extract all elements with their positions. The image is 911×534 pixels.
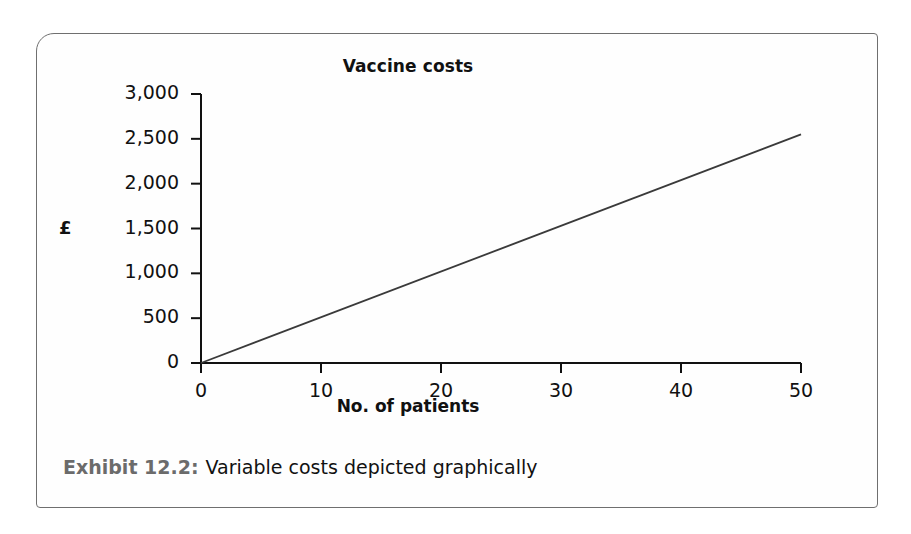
y-tick-label: 3,000 — [89, 81, 179, 103]
x-tick-label: 50 — [771, 379, 831, 401]
exhibit-caption-label: Exhibit 12.2: — [63, 456, 199, 478]
exhibit-frame: Vaccine costs £ 05001,0001,5002,0002,500… — [36, 33, 878, 508]
y-ticks-group — [191, 94, 201, 363]
y-tick-label: 2,500 — [89, 126, 179, 148]
x-axis-title: No. of patients — [37, 396, 779, 416]
y-tick-label: 500 — [89, 305, 179, 327]
axes-group — [201, 94, 801, 363]
chart-figure: Vaccine costs £ 05001,0001,5002,0002,500… — [37, 34, 879, 434]
series-line-vaccine-costs — [201, 134, 801, 363]
y-tick-label: 0 — [89, 350, 179, 372]
y-tick-label: 2,000 — [89, 171, 179, 193]
data-series-group — [201, 134, 801, 363]
y-tick-label: 1,500 — [89, 216, 179, 238]
exhibit-caption-text: Variable costs depicted graphically — [206, 456, 538, 478]
y-tick-label: 1,000 — [89, 260, 179, 282]
x-ticks-group — [201, 363, 801, 373]
exhibit-caption: Exhibit 12.2:Variable costs depicted gra… — [63, 456, 537, 478]
